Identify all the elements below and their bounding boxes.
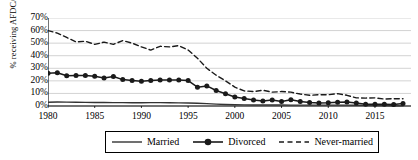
x-axis-tick: 2000	[225, 112, 244, 122]
legend-item-married[interactable]: Married	[111, 133, 179, 151]
x-axis-tick: 2015	[365, 112, 384, 122]
data-point-marker	[354, 101, 359, 106]
data-point-marker	[335, 100, 340, 105]
legend-item-never-married[interactable]: Never-married	[278, 133, 373, 151]
data-point-marker	[270, 98, 275, 103]
data-point-marker	[186, 78, 191, 83]
legend-label: Married	[147, 137, 179, 147]
data-point-marker	[167, 77, 172, 82]
data-point-marker	[204, 83, 209, 88]
x-axis-tick: 1995	[179, 112, 198, 122]
legend-label: Never-married	[314, 137, 373, 147]
y-axis-tick: 10%	[31, 88, 48, 98]
data-point-marker	[279, 99, 284, 104]
chart-container: % receiving AFDC/TANF 0%10%20%30%40%50%6…	[0, 0, 418, 160]
data-point-marker	[148, 78, 153, 83]
legend-label: Divorced	[228, 137, 265, 147]
legend-key-icon	[111, 133, 143, 151]
data-point-marker	[298, 99, 303, 104]
legend-key-icon	[192, 133, 224, 151]
legend-key-icon	[278, 133, 310, 151]
y-axis-tick: 20%	[31, 76, 48, 86]
data-point-marker	[111, 74, 116, 79]
data-point-marker	[242, 96, 247, 101]
y-axis-tick: 60%	[31, 26, 48, 36]
y-axis-tick: 70%	[31, 13, 48, 23]
series-line-never-married	[48, 31, 403, 100]
y-axis-tick: 40%	[31, 51, 48, 61]
data-point-marker	[195, 85, 200, 90]
data-point-marker	[260, 99, 265, 104]
x-axis-tick: 1985	[85, 112, 104, 122]
data-point-marker	[139, 79, 144, 84]
x-axis-tick: 2005	[272, 112, 291, 122]
data-point-marker	[120, 77, 125, 82]
data-point-marker	[307, 100, 312, 105]
data-point-marker	[130, 78, 135, 83]
data-point-marker	[48, 71, 51, 76]
data-point-marker	[223, 91, 228, 96]
y-axis-tick: 50%	[31, 38, 48, 48]
chart-legend: MarriedDivorcedNever-married	[105, 131, 379, 153]
data-point-marker	[316, 100, 321, 105]
x-axis-tick: 1990	[132, 112, 151, 122]
data-point-marker	[214, 88, 219, 93]
data-point-marker	[401, 101, 406, 106]
data-point-marker	[344, 99, 349, 104]
series-line-divorced	[48, 73, 403, 105]
data-point-marker	[251, 97, 256, 102]
x-axis-tick: 1980	[39, 112, 58, 122]
data-point-marker	[176, 78, 181, 83]
data-point-marker	[55, 70, 60, 75]
legend-item-divorced[interactable]: Divorced	[192, 133, 265, 151]
data-point-marker	[83, 73, 88, 78]
chart-canvas	[48, 18, 411, 108]
y-axis-tick: 30%	[31, 63, 48, 73]
data-point-marker	[74, 73, 79, 78]
data-point-marker	[92, 74, 97, 79]
data-point-marker	[382, 102, 387, 107]
data-point-marker	[326, 100, 331, 105]
data-point-marker	[288, 97, 293, 102]
x-axis-tick: 2010	[319, 112, 338, 122]
gridlines	[48, 18, 411, 106]
y-axis-tick: 0%	[35, 101, 48, 111]
data-point-marker	[64, 73, 69, 78]
data-point-marker	[102, 76, 107, 81]
data-point-marker	[363, 102, 368, 107]
data-point-marker	[391, 102, 396, 107]
plot-area	[48, 18, 403, 106]
data-point-marker	[158, 78, 163, 83]
data-point-marker	[372, 102, 377, 107]
data-point-marker	[232, 95, 237, 100]
